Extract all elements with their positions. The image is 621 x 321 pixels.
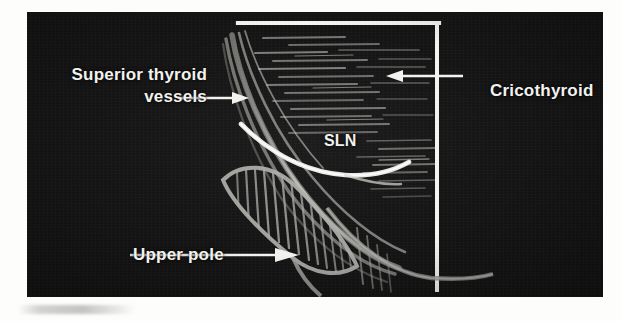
inferior-vessel-continuation <box>293 258 321 296</box>
label-superior-thyroid-vessels: Superior thyroid vessels <box>49 64 207 108</box>
leader-cricothyroid <box>386 70 463 82</box>
label-sln: SLN <box>324 131 357 151</box>
label-cricothyroid: Cricothyroid <box>490 80 593 102</box>
illustration-panel: Superior thyroid vessels Cricothyroid SL… <box>27 12 603 297</box>
figure-root: Superior thyroid vessels Cricothyroid SL… <box>0 0 621 321</box>
label-upper-pole: Upper pole <box>133 244 224 266</box>
anatomy-drawing <box>27 12 603 297</box>
paper-smudge <box>18 305 136 314</box>
